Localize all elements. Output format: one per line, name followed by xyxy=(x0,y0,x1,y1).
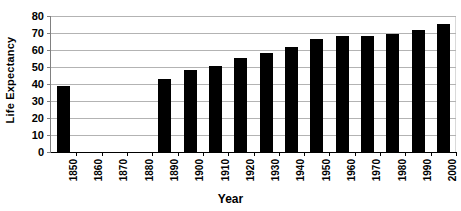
bar xyxy=(336,36,349,152)
bar-chart: Life Expectancy 01020304050607080 185018… xyxy=(0,0,461,211)
bars-layer xyxy=(51,16,456,152)
y-axis-tick-label: 10 xyxy=(32,129,44,141)
bar xyxy=(209,66,222,152)
x-axis-tick-label: 1950 xyxy=(321,159,332,195)
x-axis-tickmark xyxy=(304,152,305,156)
x-axis-tickmark xyxy=(203,152,204,156)
x-axis-tick-label: 2000 xyxy=(447,159,458,195)
x-axis-tickmark xyxy=(431,152,432,156)
y-axis-tickmark xyxy=(47,152,51,153)
x-axis-tick-label: 1960 xyxy=(346,159,357,195)
x-axis-tickmark xyxy=(279,152,280,156)
bar xyxy=(386,34,399,152)
x-axis-tickmark xyxy=(329,152,330,156)
bar xyxy=(260,53,273,152)
x-axis-tickmark xyxy=(355,152,356,156)
plot-area xyxy=(50,16,456,153)
x-axis-tick-label: 1980 xyxy=(397,159,408,195)
x-axis-tick-label: 1880 xyxy=(144,159,155,195)
y-axis-tick-label: 20 xyxy=(32,112,44,124)
x-axis-tick-label: 1910 xyxy=(220,159,231,195)
bar xyxy=(437,24,450,152)
x-axis-tick-label: 1850 xyxy=(68,159,79,195)
x-axis-tickmark xyxy=(405,152,406,156)
x-axis-tickmark xyxy=(178,152,179,156)
y-axis-tick-label: 30 xyxy=(32,95,44,107)
x-axis-tick-label: 1990 xyxy=(422,159,433,195)
y-axis-tick-labels: 01020304050607080 xyxy=(20,16,46,152)
bar xyxy=(158,79,171,152)
x-axis-tickmark xyxy=(127,152,128,156)
x-axis-tickmark xyxy=(456,152,457,156)
x-axis-tick-label: 1970 xyxy=(371,159,382,195)
x-axis-tickmark xyxy=(102,152,103,156)
x-axis-tick-label: 1860 xyxy=(93,159,104,195)
bar xyxy=(310,39,323,152)
y-axis-title: Life Expectancy xyxy=(0,0,20,160)
x-axis-tickmark xyxy=(152,152,153,156)
bar xyxy=(285,47,298,152)
bar xyxy=(234,58,247,152)
bar xyxy=(412,30,425,152)
y-axis-tick-label: 80 xyxy=(32,10,44,22)
bar xyxy=(184,70,197,152)
x-axis-tick-label: 1870 xyxy=(118,159,129,195)
x-axis-title: Year xyxy=(0,192,461,206)
x-axis-tickmark xyxy=(228,152,229,156)
x-axis-tick-label: 1900 xyxy=(194,159,205,195)
x-axis-tickmark xyxy=(76,152,77,156)
x-axis-tick-label: 1940 xyxy=(295,159,306,195)
x-axis-tick-labels: 1850186018701880189019001910192019301940… xyxy=(50,157,455,193)
x-axis-tickmark xyxy=(254,152,255,156)
y-axis-tick-label: 70 xyxy=(32,27,44,39)
x-axis-tick-label: 1930 xyxy=(270,159,281,195)
y-axis-tick-label: 50 xyxy=(32,61,44,73)
y-axis-tick-label: 40 xyxy=(32,78,44,90)
y-axis-title-label: Life Expectancy xyxy=(4,37,16,124)
x-axis-tick-label: 1890 xyxy=(169,159,180,195)
y-axis-tick-label: 60 xyxy=(32,44,44,56)
x-axis-tickmark xyxy=(380,152,381,156)
bar xyxy=(361,36,374,152)
x-axis-tick-label: 1920 xyxy=(245,159,256,195)
y-axis-tick-label: 0 xyxy=(38,146,44,158)
bar xyxy=(57,86,70,152)
